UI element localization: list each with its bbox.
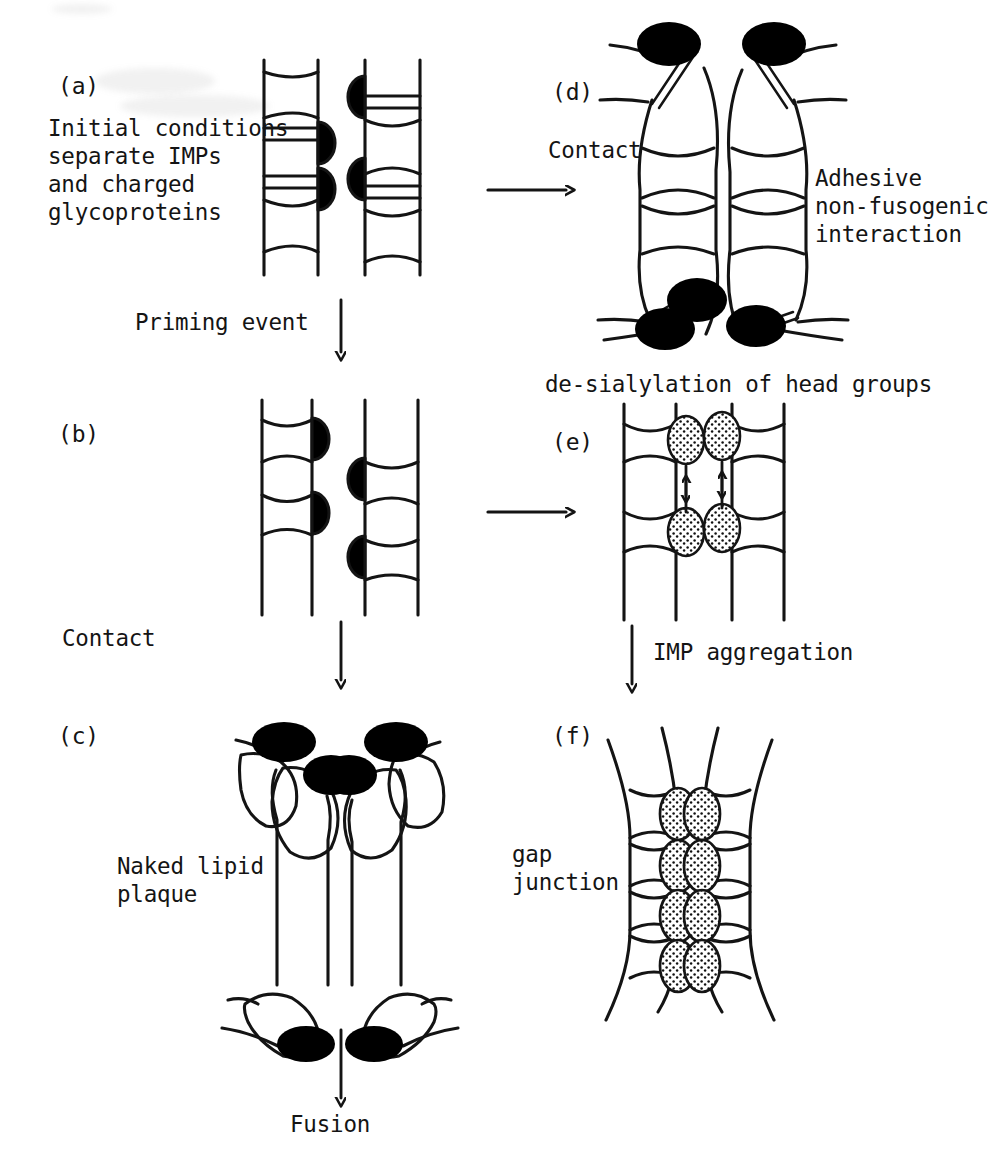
panel-b-graphic: [262, 400, 418, 615]
desialylated-imp: [704, 504, 740, 552]
glycoprotein: [312, 492, 329, 534]
panel-f-graphic: [606, 728, 774, 1020]
gap-junction-imp: [684, 940, 720, 992]
gap-junction-imp: [684, 840, 720, 892]
desialylated-imp: [704, 412, 740, 460]
glycoprotein: [277, 1026, 335, 1062]
panel-a-graphic: [264, 60, 420, 275]
glycoprotein: [348, 536, 365, 578]
glycoprotein: [742, 22, 806, 66]
glycoprotein: [318, 168, 335, 210]
glycoprotein: [345, 1026, 403, 1062]
desialylated-imp: [668, 508, 704, 556]
panel-d-graphic: [598, 22, 848, 350]
glycoprotein: [635, 308, 695, 350]
glycoprotein: [637, 22, 701, 66]
glycoprotein: [321, 755, 377, 795]
figure-artwork: [0, 0, 1002, 1158]
panel-c-graphic: [222, 722, 458, 1062]
gap-junction-imp: [684, 890, 720, 942]
glycoprotein: [252, 722, 316, 762]
gap-junction-imp: [684, 788, 720, 840]
glycoprotein: [312, 418, 329, 460]
glycoprotein: [348, 158, 365, 200]
panel-e-graphic: [624, 404, 784, 620]
glycoprotein: [348, 76, 365, 118]
glycoprotein: [364, 722, 428, 762]
glycoprotein: [726, 305, 786, 347]
desialylated-imp: [668, 416, 704, 464]
glycoprotein: [318, 122, 335, 164]
glycoprotein: [348, 458, 365, 500]
